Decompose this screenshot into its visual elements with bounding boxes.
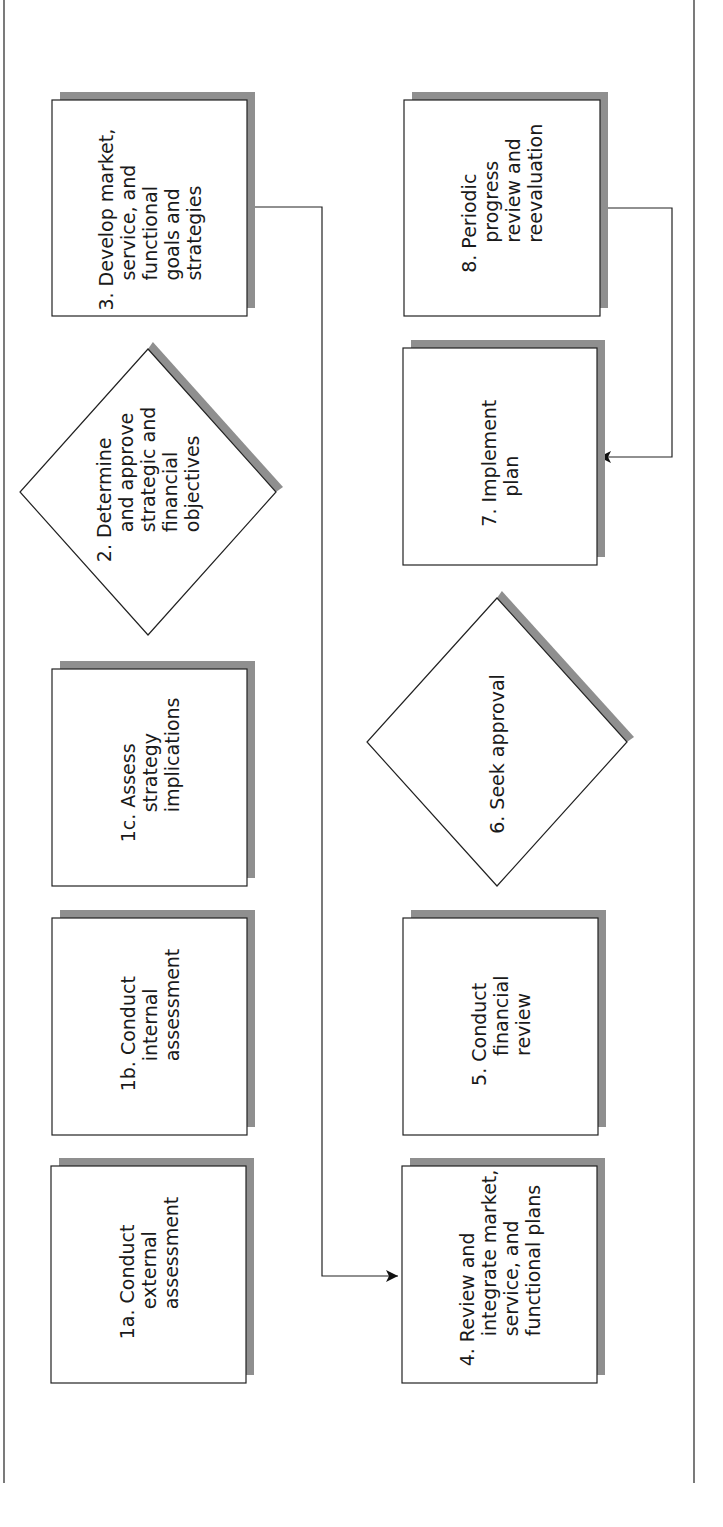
node-label-line: progress <box>480 161 502 243</box>
nodes: 1a. Conductexternalassessment1b. Conduct… <box>20 92 634 1383</box>
node-6-diamond: 6. Seek approval <box>367 591 634 886</box>
node-label-line: 4. Review and <box>456 1233 478 1367</box>
node-4-box: 4. Review andintegrate market,service, a… <box>402 1158 605 1383</box>
node-3-box: 3. Develop market,service, andfunctional… <box>52 92 255 316</box>
node-label-line: strategic and <box>137 407 159 533</box>
node-label-line: internal <box>139 988 161 1061</box>
node-1b-box: 1b. Conductinternalassessment <box>52 910 255 1135</box>
node-label-line: service, and <box>117 165 139 281</box>
node-label-line: objectives <box>181 436 203 533</box>
node-label-line: assessment <box>161 949 183 1062</box>
node-label-line: 2. Determine <box>93 438 115 563</box>
node-label-line: 6. Seek approval <box>486 674 508 834</box>
node-label-line: 1b. Conduct <box>117 976 139 1091</box>
node-label: 6. Seek approval <box>486 674 508 834</box>
node-label-line: financial <box>490 976 512 1056</box>
node-label-line: financial <box>159 452 181 532</box>
node-label-line: 8. Periodic <box>458 174 480 273</box>
node-label-line: goals and <box>161 188 183 280</box>
node-label-line: implications <box>161 698 183 813</box>
node-label-line: review <box>512 993 534 1056</box>
node-label-line: 3. Develop market, <box>95 129 117 311</box>
node-label-line: external <box>138 1231 160 1309</box>
connector-8-to-7 <box>599 208 672 463</box>
node-label-line: review and <box>502 138 524 243</box>
node-label-line: 1c. Assess <box>117 743 139 842</box>
node-label-line: functional <box>139 186 161 281</box>
node-label-line: reevaluation <box>524 124 546 243</box>
node-8-box: 8. Periodicprogressreview andreevaluatio… <box>404 92 608 316</box>
node-7-box: 7. Implementplan <box>403 340 605 565</box>
node-label-line: 5. Conduct <box>468 983 490 1086</box>
strategic-planning-flowchart: 1a. Conductexternalassessment1b. Conduct… <box>0 0 723 1527</box>
node-1c-box: 1c. Assessstrategyimplications <box>52 661 255 886</box>
node-label-line: 1a. Conduct <box>116 1225 138 1340</box>
node-label-line: integrate market, <box>478 1170 500 1337</box>
node-label-line: 7. Implement <box>478 400 500 527</box>
node-label-line: functional plans <box>522 1185 544 1337</box>
node-label-line: assessment <box>160 1197 182 1310</box>
node-1a-box: 1a. Conductexternalassessment <box>51 1158 254 1383</box>
node-2-diamond: 2. Determineand approvestrategic andfina… <box>20 342 283 635</box>
node-5-box: 5. Conductfinancialreview <box>403 910 606 1135</box>
node-label-line: and approve <box>115 413 137 533</box>
node-label-line: strategies <box>183 186 205 281</box>
node-label-line: plan <box>500 456 522 497</box>
node-label-line: strategy <box>139 733 161 812</box>
node-label-line: service, and <box>500 1220 522 1336</box>
